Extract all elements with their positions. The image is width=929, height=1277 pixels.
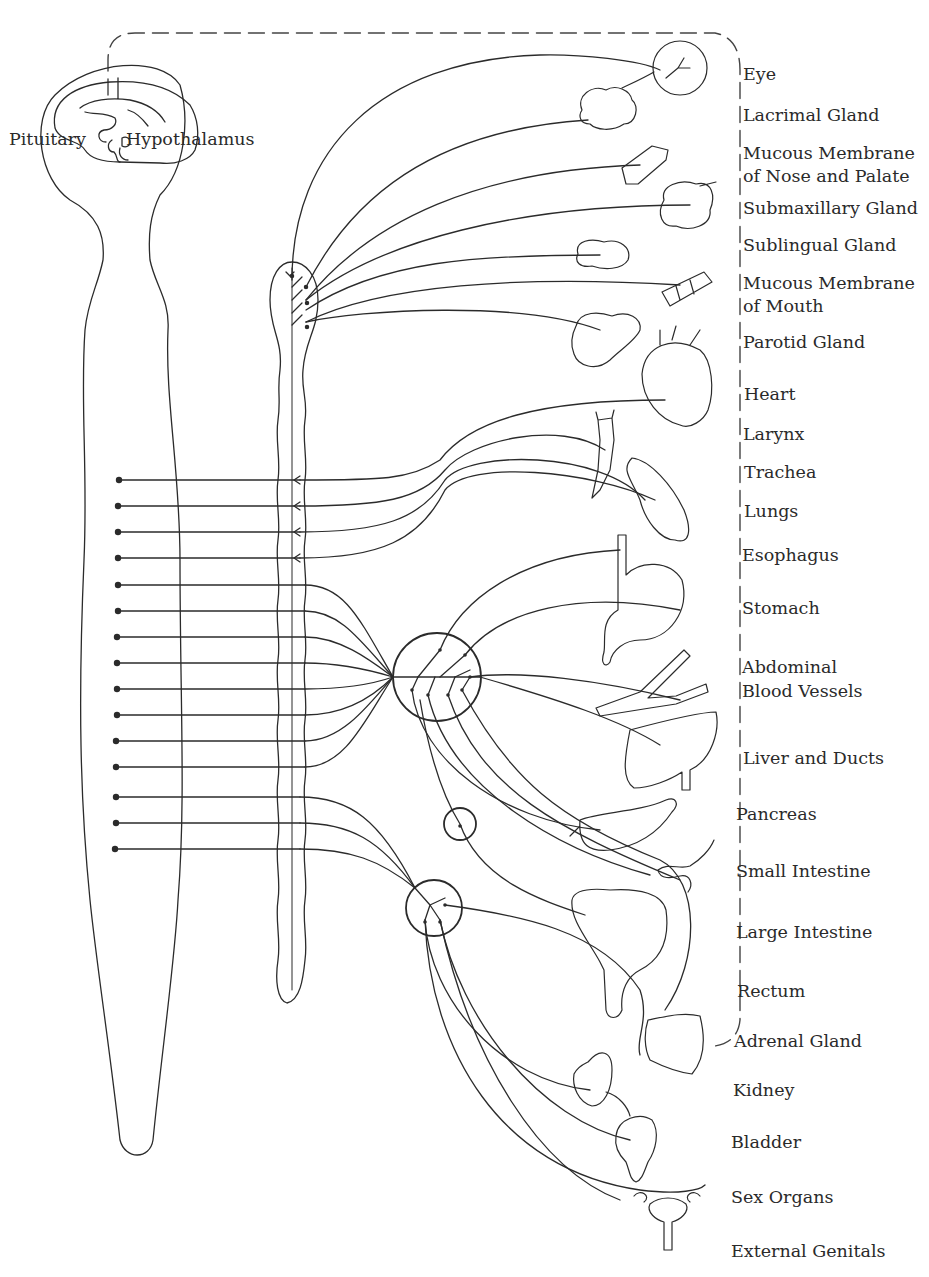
- spinal-efferent-rows: [112, 400, 665, 888]
- label-lacrimal-gland: Lacrimal Gland: [743, 104, 880, 126]
- cranial-outflow-lines: [286, 120, 690, 330]
- label-heart: Heart: [744, 383, 795, 405]
- reproductive-organs-illustration: [634, 1193, 700, 1250]
- label-mucous-membrane-nose-2: of Nose and Palate: [743, 165, 910, 187]
- heart-illustration: [642, 326, 712, 426]
- hypothalamus-label: Hypothalamus: [126, 129, 255, 149]
- celiac-ganglion: [393, 550, 691, 1010]
- label-small-intestine: Small Intestine: [736, 860, 871, 882]
- label-bladder: Bladder: [731, 1131, 801, 1153]
- label-sex-organs: Sex Organs: [731, 1186, 833, 1208]
- label-parotid-gland: Parotid Gland: [743, 331, 865, 353]
- label-lungs: Lungs: [744, 500, 798, 522]
- lungs-illustration: [627, 458, 689, 541]
- pituitary-shape: [108, 140, 120, 162]
- label-sublingual-gland: Sublingual Gland: [743, 234, 896, 256]
- organ-illustrations: [570, 41, 717, 1250]
- inferior-mesenteric-ganglion: [406, 880, 705, 1200]
- eye-illustration: [622, 41, 707, 95]
- label-eye: Eye: [743, 63, 776, 85]
- oral-mucosa-illustration: [662, 272, 712, 306]
- label-pancreas: Pancreas: [736, 803, 817, 825]
- small-intestine-illustration: [658, 840, 714, 892]
- row-dots: [112, 477, 122, 852]
- sublingual-illustration: [577, 240, 629, 268]
- label-abdominal-blood-vessels-2: Blood Vessels: [742, 680, 863, 702]
- label-stomach: Stomach: [742, 597, 820, 619]
- label-large-intestine: Large Intestine: [736, 921, 872, 943]
- autonomic-nervous-system-diagram: Pituitary Hypothalamus Eye Lacrimal Glan…: [0, 0, 929, 1277]
- liver-illustration: [625, 712, 717, 790]
- sympathetic-chain-outline: [270, 262, 318, 1003]
- label-mucous-membrane-mouth-1: Mucous Membrane: [743, 272, 915, 294]
- label-submaxillary-gland: Submaxillary Gland: [743, 197, 918, 219]
- blood-vessels-illustration: [596, 650, 708, 716]
- label-larynx: Larynx: [743, 423, 804, 445]
- label-rectum: Rectum: [737, 980, 805, 1002]
- stomach-illustration: [603, 535, 684, 665]
- label-adrenal-gland: Adrenal Gland: [734, 1030, 862, 1052]
- large-intestine-illustration: [572, 889, 667, 1017]
- adrenal-illustration: [645, 1014, 703, 1074]
- head-outline: [41, 65, 185, 1155]
- label-kidney: Kidney: [733, 1079, 794, 1101]
- parotid-illustration: [572, 313, 640, 366]
- label-esophagus: Esophagus: [742, 544, 839, 566]
- label-abdominal-blood-vessels-1: Abdominal: [742, 656, 837, 678]
- kidney-illustration: [574, 1053, 630, 1116]
- label-external-genitals: External Genitals: [731, 1240, 886, 1262]
- lacrimal-illustration: [580, 88, 636, 130]
- pituitary-label: Pituitary: [9, 129, 86, 149]
- label-trachea: Trachea: [744, 461, 816, 483]
- label-mucous-membrane-nose-1: Mucous Membrane: [743, 142, 915, 164]
- brain-outline: [54, 82, 197, 164]
- label-liver-and-ducts: Liver and Ducts: [743, 747, 884, 769]
- label-mucous-membrane-mouth-2: of Mouth: [743, 295, 824, 317]
- dashed-boundary: [108, 33, 740, 1046]
- bladder-illustration: [616, 1117, 657, 1182]
